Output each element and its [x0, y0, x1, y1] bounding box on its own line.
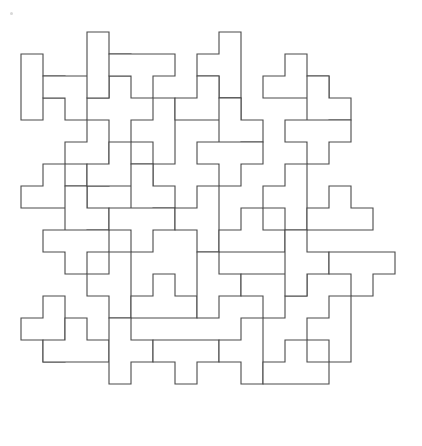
tiling-figure	[0, 0, 422, 446]
tetromino-tiling-canvas	[0, 0, 422, 446]
scan-speck-artifact	[10, 12, 13, 15]
